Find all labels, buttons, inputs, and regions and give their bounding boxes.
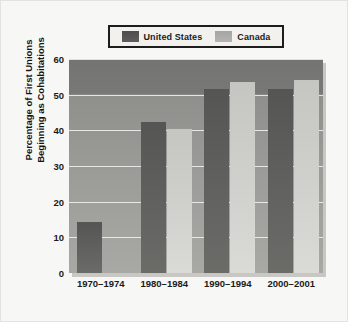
legend-entry-united-states: United States (122, 31, 203, 42)
bar-group (196, 59, 260, 273)
bar-groups (69, 59, 323, 273)
chart-legend: United States Canada (108, 25, 284, 48)
bar-canada (167, 129, 192, 273)
y-axis-tick-label: 30 (24, 161, 64, 172)
bar-group (69, 59, 133, 273)
legend-label-canada: Canada (237, 32, 270, 42)
x-axis-tick-label: 1970–1974 (69, 278, 133, 289)
bar-group (260, 59, 324, 273)
bar-canada (294, 80, 319, 273)
y-axis-tick-label: 50 (24, 89, 64, 100)
y-axis-tick-label: 40 (24, 125, 64, 136)
bar-chart-figure: United States Canada Percentage of First… (0, 0, 348, 322)
bar-united-states (204, 89, 229, 273)
plot-area (69, 59, 323, 273)
x-axis-tick-label: 2000–2001 (259, 278, 323, 289)
legend-label-united-states: United States (144, 32, 203, 42)
y-axis-tick-label: 60 (24, 54, 64, 65)
bar-canada (230, 82, 255, 273)
bar-united-states (268, 89, 293, 273)
legend-swatch-united-states (122, 31, 139, 42)
bar-united-states (77, 222, 102, 273)
legend-entry-canada: Canada (215, 31, 270, 42)
bar-united-states (141, 122, 166, 273)
y-axis-tick-label: 10 (24, 232, 64, 243)
y-axis-tick-label: 20 (24, 196, 64, 207)
x-axis-tick-label: 1990–1994 (196, 278, 260, 289)
bar-group (133, 59, 197, 273)
legend-swatch-canada (215, 31, 232, 42)
x-axis-tick-label: 1980–1984 (132, 278, 196, 289)
y-axis-tick-label: 0 (24, 268, 64, 279)
